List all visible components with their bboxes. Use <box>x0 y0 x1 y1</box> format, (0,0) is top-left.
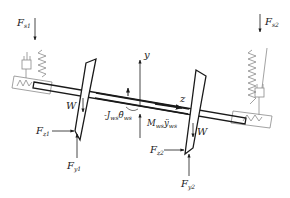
label-y-axis: y <box>144 50 150 60</box>
left-suspension <box>12 50 52 94</box>
label-w-right: W <box>197 127 207 137</box>
label-fs2: Fs2 <box>265 17 279 28</box>
fs1-sub: s1 <box>24 22 31 29</box>
right-wheel <box>185 70 206 154</box>
label-fz2: Fz2 <box>150 145 164 156</box>
axle <box>33 82 246 124</box>
label-fz1: Fz1 <box>36 126 50 137</box>
label-inertial-force: Mwsÿws <box>147 119 177 129</box>
fz2-base: F <box>150 144 157 155</box>
label-fy2: Fy2 <box>181 179 195 190</box>
moment-symbol-sub: ws <box>124 114 132 121</box>
label-inertial-moment: -Jwsθ̈ws <box>104 111 132 121</box>
label-z-axis: z <box>180 94 185 104</box>
fs2-base: F <box>265 16 272 27</box>
label-fs1: Fs1 <box>17 18 31 29</box>
fs1-base: F <box>17 17 24 28</box>
fz2-sub: z2 <box>157 149 164 156</box>
fs2-sub: s2 <box>272 21 279 28</box>
wheelset-free-body-diagram <box>0 0 290 198</box>
label-fy1: Fy1 <box>67 161 81 172</box>
moment-sub: ws <box>110 114 118 121</box>
fz1-base: F <box>36 125 43 136</box>
fy2-base: F <box>181 178 188 189</box>
force-symbol-sub: ws <box>169 122 177 129</box>
label-w-left: W <box>66 101 76 111</box>
fy1-base: F <box>67 160 74 171</box>
fy1-sub: y1 <box>74 165 81 172</box>
fz1-sub: z1 <box>43 130 50 137</box>
left-wheel <box>75 59 96 140</box>
force-base: M <box>147 118 156 128</box>
fy2-sub: y2 <box>188 183 195 190</box>
force-sub: ws <box>156 122 164 129</box>
